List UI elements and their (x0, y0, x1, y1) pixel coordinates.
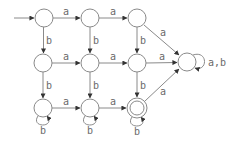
state-q10 (34, 54, 52, 72)
label-q11-q12: a (110, 51, 116, 62)
state-q00 (35, 9, 53, 27)
state-q01 (81, 9, 99, 27)
label-q21-q22: a (110, 96, 116, 107)
label-q12-q22: b (140, 80, 146, 91)
state-q22-accept-inner (130, 101, 144, 115)
label-loop-sink: a,b (208, 57, 226, 68)
label-loop-q20: b (40, 125, 46, 136)
label-q10-q20: b (46, 80, 52, 91)
state-q11 (81, 54, 99, 72)
state-q20 (34, 99, 52, 117)
label-q11-q21: b (93, 80, 99, 91)
edge-q12-sink (146, 63, 177, 64)
label-q01-q11: b (93, 35, 99, 46)
state-q12 (128, 54, 146, 72)
label-q02-sink: a (160, 27, 166, 38)
label-q01-q02: a (110, 6, 116, 17)
label-q02-q12: b (140, 35, 146, 46)
label-q22-sink: a (160, 86, 166, 97)
dfa-diagram: a a a a a a a a a b b b b b b b b b a,b (0, 0, 235, 141)
label-q00-q01: a (63, 6, 69, 17)
label-q10-q11: a (63, 51, 69, 62)
label-loop-q22: b (134, 126, 140, 137)
label-q00-q10: b (46, 35, 52, 46)
state-sink (178, 53, 196, 71)
label-loop-q21: b (87, 125, 93, 136)
state-q21 (81, 99, 99, 117)
label-q12-sink: a (159, 51, 165, 62)
label-q20-q21: a (63, 96, 69, 107)
state-q02 (128, 9, 146, 27)
